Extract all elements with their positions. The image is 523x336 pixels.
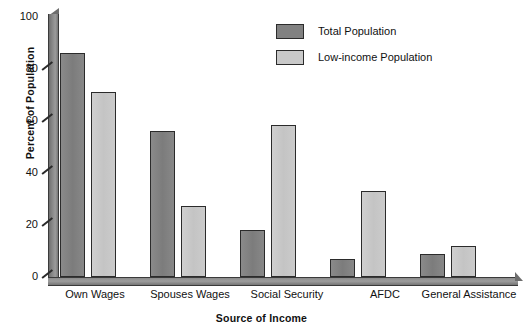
bar-own-wages-lowincome [91,92,116,277]
chart-legend: Total Population Low-income Population [276,18,432,70]
bar-afdc-lowincome [361,191,386,277]
y-tick-label-100: 100 [6,11,38,22]
bar-general-assistance-lowincome [451,246,476,277]
bar-general-assistance-total [420,254,445,277]
bar-chart: Percent of Population 0 20 40 60 80 100 … [0,0,523,336]
legend-label-total-population: Total Population [318,25,396,37]
y-tick-label-80: 80 [12,63,38,74]
bar-own-wages-total [60,53,85,277]
bar-social-security-lowincome [271,125,296,277]
legend-label-low-income-population: Low-income Population [318,51,432,63]
y-tick-label-0: 0 [12,271,38,282]
y-tick-label-40: 40 [12,167,38,178]
bar-spouses-wages-lowincome [181,206,206,278]
x-tick-label-social-security: Social Security [222,288,352,300]
x-tick-label-general-assistance: General Assistance [404,288,523,300]
x-axis-arrow-cap [515,272,523,281]
bar-social-security-total [240,230,265,277]
legend-item-low-income-population: Low-income Population [276,44,432,70]
y-tick-label-20: 20 [12,219,38,230]
bar-spouses-wages-total [150,131,175,277]
x-axis-line [48,277,518,286]
legend-item-total-population: Total Population [276,18,432,44]
legend-swatch-icon-total-population [276,24,304,39]
x-axis-title: Source of Income [0,312,523,324]
figure-caption [0,331,523,336]
bar-afdc-total [330,259,355,277]
y-tick-label-60: 60 [12,115,38,126]
legend-swatch-icon-low-income-population [276,50,304,65]
